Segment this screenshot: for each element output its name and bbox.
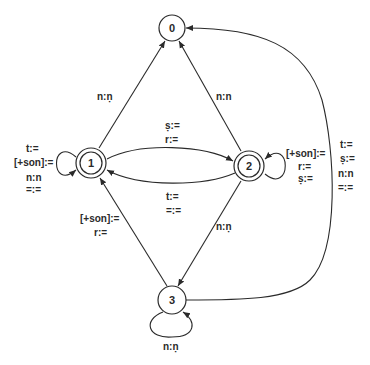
edge-2-to-3: n:ṇ [178,181,241,286]
state-node-1-final: 1 [76,148,106,178]
node-label: 1 [88,157,94,169]
edge-label: =:= [26,184,41,195]
edge-label: =:= [338,182,353,193]
edge-label: [+son]:= [14,157,54,168]
edge-3-to-1: [+son]:= r:= [80,178,167,286]
edge-label: ṣ:= [298,173,313,185]
self-loop-1: t:= [+son]:= n:n =:= [14,143,76,195]
edge-label: [+son]:= [286,148,326,159]
edge-label: =:= [166,205,181,216]
edge-label: t:= [340,139,353,150]
edge-label: [+son]:= [80,213,120,224]
edge-label: n:n [338,168,354,179]
edge-2-to-1: t:= =:= [107,170,235,216]
edge-3-to-0: t:= ṣ:= n:n =:= [186,28,355,300]
edge-label: t:= [26,143,39,154]
edge-label: ṣ:= [340,153,355,165]
edge-label: n:n [26,172,42,183]
edge-label: r:= [165,134,178,145]
edge-1-to-0: n:ṇ [97,41,165,148]
edge-1-to-2: ṣ:= r:= [107,120,233,161]
edge-label: n:ṇ [97,91,113,103]
self-loop-3: n:ṇ [150,312,192,353]
edge-label: n:ṇ [163,341,179,353]
edge-label: n:n [216,91,232,102]
edge-label: t:= [166,191,179,202]
state-node-2-final: 2 [234,151,264,181]
node-label: 3 [169,294,175,306]
node-label: 0 [169,22,175,34]
self-loop-2: [+son]:= r:= ṣ:= [265,148,326,185]
state-node-0: 0 [159,15,185,41]
state-transition-diagram: n:ṇ n:n ṣ:= r:= t:= =:= t:= [+son]:= n:n… [0,0,370,365]
node-label: 2 [246,160,252,172]
edge-label: r:= [94,227,107,238]
state-node-3: 3 [158,286,186,314]
edge-2-to-0: n:n [179,41,241,151]
edge-label: ṣ:= [165,120,180,132]
edge-label: r:= [298,161,311,172]
edge-label: n:ṇ [216,221,232,233]
